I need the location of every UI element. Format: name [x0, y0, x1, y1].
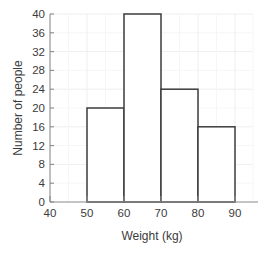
y-tick-label: 28	[32, 64, 45, 76]
y-tick-label: 12	[32, 140, 45, 152]
y-tick-label: 24	[32, 83, 45, 95]
chart-canvas: 40 36 32 28 24 20 16 12 8 4 0 40 50 60 7…	[0, 0, 266, 254]
y-axis-tick-labels: 40 36 32 28 24 20 16 12 8 4 0	[32, 8, 45, 208]
y-tick-label: 32	[32, 46, 45, 58]
y-tick-label: 4	[39, 177, 46, 189]
y-axis-title: Number of people	[11, 60, 25, 156]
y-tick-label: 36	[32, 27, 45, 39]
x-tick-label: 60	[118, 207, 131, 219]
x-tick-label: 80	[192, 207, 205, 219]
y-tick-label: 16	[32, 121, 45, 133]
histogram-bar	[161, 89, 198, 202]
histogram-bar	[124, 14, 161, 202]
x-axis-title: Weight (kg)	[121, 229, 182, 243]
x-axis-tick-labels: 40 50 60 70 80 90	[44, 207, 242, 219]
y-tick-label: 20	[32, 102, 45, 114]
x-tick-label: 70	[155, 207, 168, 219]
histogram-bar	[87, 108, 124, 202]
histogram-chart: 40 36 32 28 24 20 16 12 8 4 0 40 50 60 7…	[0, 0, 266, 254]
histogram-bar	[198, 127, 235, 202]
y-tick-label: 8	[39, 158, 45, 170]
y-tick-label: 40	[32, 8, 45, 20]
x-tick-label: 90	[229, 207, 242, 219]
x-tick-label: 50	[81, 207, 94, 219]
x-tick-label: 40	[44, 207, 57, 219]
